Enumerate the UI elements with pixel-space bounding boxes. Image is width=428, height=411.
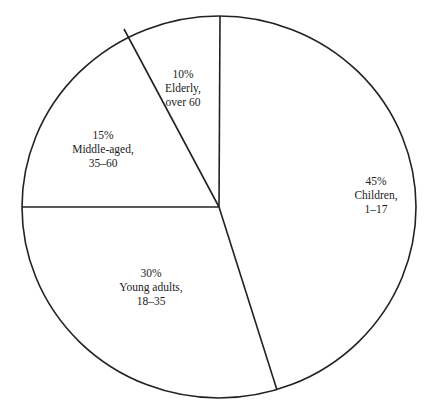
name: Elderly, — [128, 81, 238, 95]
pct: 15% — [48, 128, 158, 142]
divider-children-elderly — [219, 16, 220, 207]
slice-label-middle-aged: 15% Middle-aged, 35–60 — [48, 128, 158, 170]
range: over 60 — [128, 95, 238, 109]
range: 18–35 — [96, 294, 206, 308]
slice-label-elderly: 10% Elderly, over 60 — [128, 67, 238, 109]
name: Children, — [321, 188, 428, 202]
name: Middle-aged, — [48, 142, 158, 156]
pct: 30% — [96, 266, 206, 280]
pct: 45% — [321, 174, 428, 188]
slice-label-young-adults: 30% Young adults, 18–35 — [96, 266, 206, 308]
pct: 10% — [128, 67, 238, 81]
slice-label-children: 45% Children, 1–17 — [321, 174, 428, 216]
name: Young adults, — [96, 280, 206, 294]
range: 1–17 — [321, 202, 428, 216]
range: 35–60 — [48, 156, 158, 170]
